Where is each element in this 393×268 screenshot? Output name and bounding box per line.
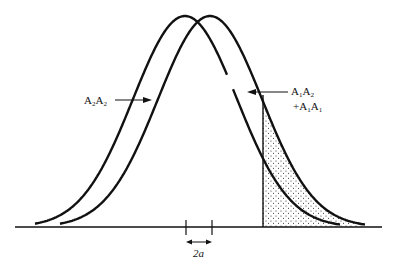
label-a2a2: A2A2 <box>84 95 107 108</box>
label-text: A <box>299 100 307 112</box>
label-offset-2a: 2a <box>193 248 204 259</box>
label-text: A <box>311 100 319 112</box>
diagram-canvas <box>0 0 393 268</box>
label-sub: 2 <box>103 100 107 108</box>
offset-arrowhead-right-icon <box>206 240 212 245</box>
label-plus-a1a1: +A1A1 <box>293 101 322 114</box>
label-sub: 2 <box>310 91 314 99</box>
label-text: A <box>84 94 92 106</box>
a2a2-arrowhead-icon <box>143 97 152 103</box>
right-distribution-curve <box>60 16 365 225</box>
label-sub: 1 <box>319 106 323 114</box>
left-distribution-curve <box>35 16 227 224</box>
a1a2-arrowhead-icon <box>247 89 256 95</box>
shaded-tail-region <box>263 102 365 228</box>
offset-text: 2a <box>193 247 204 259</box>
label-text: A <box>291 85 299 97</box>
label-a1a2: A1A2 <box>291 86 314 99</box>
offset-arrowhead-left-icon <box>186 240 192 245</box>
